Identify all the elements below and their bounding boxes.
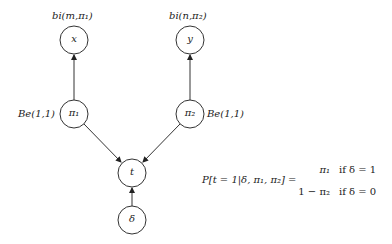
case-1-value: π₁ xyxy=(304,164,330,175)
node-t-label: t xyxy=(118,166,146,177)
case-2-value: 1 − π₂ xyxy=(294,186,330,197)
y-distribution-label: bi(n,π₂) xyxy=(169,10,207,21)
node-x-label: x xyxy=(60,33,88,44)
edge-pi1-t xyxy=(84,124,121,162)
node-y-label: y xyxy=(176,33,204,44)
node-pi1-label: π₁ xyxy=(60,107,88,118)
pi2-prior-label: Be(1,1) xyxy=(207,108,244,119)
case-1-condition: if δ = 1 xyxy=(339,164,376,175)
pi1-prior-label: Be(1,1) xyxy=(18,108,55,119)
equation-lhs: P[t = 1|δ, π₁, π₂] = xyxy=(202,174,296,185)
x-distribution-label: bi(m,π₁) xyxy=(52,10,93,21)
node-delta-label: δ xyxy=(118,213,146,224)
node-pi2-label: π₂ xyxy=(176,107,204,118)
case-2-condition: if δ = 0 xyxy=(339,186,376,197)
edge-pi2-t xyxy=(143,124,180,162)
